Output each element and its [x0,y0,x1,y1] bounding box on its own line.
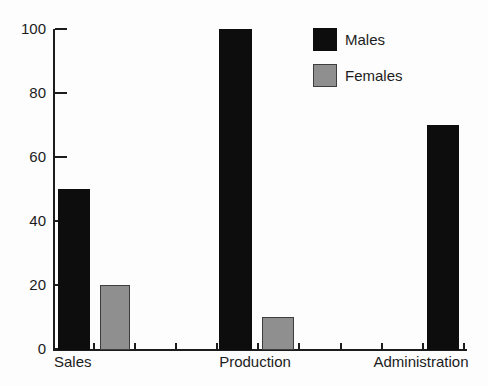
bar-females-sales [100,285,130,350]
y-tick-label-80: 80 [0,84,46,102]
x-tick-5 [257,343,259,349]
bar-males-production [219,29,252,350]
x-tick-6 [298,343,300,349]
bar-males-administration [427,125,459,350]
y-tick-label-60: 60 [0,148,46,166]
y-axis-line [53,29,55,351]
x-tick-9 [422,343,424,349]
y-tick-100 [55,28,67,30]
x-category-label-sales: Sales [54,353,92,371]
males-swatch [313,28,337,51]
y-tick-label-100: 100 [0,20,46,38]
x-tick-4 [216,343,218,349]
x-tick-8 [381,343,383,349]
x-tick-3 [175,343,177,349]
x-category-label-production: Production [219,353,291,371]
legend-item-males: Males [313,28,403,51]
y-tick-60 [55,156,67,158]
females-swatch [313,64,337,87]
males-legend-label: Males [345,31,385,49]
y-tick-label-20: 20 [0,276,46,294]
bar-females-production [262,317,294,350]
legend: Males Females [313,28,403,87]
legend-item-females: Females [313,64,403,87]
females-legend-label: Females [345,67,403,85]
bar-males-sales [58,189,90,350]
x-tick-1 [93,343,95,349]
y-tick-label-0: 0 [0,340,46,358]
bar-chart: 020406080100 SalesProductionAdministrati… [0,0,488,386]
x-tick-7 [340,343,342,349]
x-category-label-administration: Administration [373,353,468,371]
y-tick-label-40: 40 [0,212,46,230]
y-tick-80 [55,92,67,94]
x-tick-10 [463,343,465,349]
x-tick-2 [134,343,136,349]
